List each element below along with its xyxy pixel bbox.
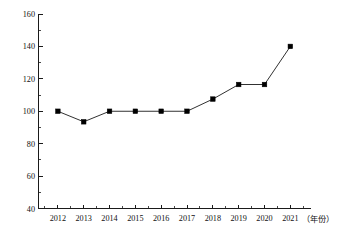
y-tick-label: 40 — [27, 205, 35, 214]
data-point-marker — [56, 109, 61, 114]
data-point-marker — [211, 97, 216, 102]
x-tick-label: 2014 — [101, 214, 117, 223]
data-point-marker — [107, 109, 112, 114]
line-chart-figure: 406080100120140160 201220132014201520162… — [0, 0, 351, 236]
chart-canvas: 406080100120140160 201220132014201520162… — [0, 0, 351, 236]
x-tick-label: 2013 — [76, 214, 92, 223]
x-tick-label: 2020 — [256, 214, 272, 223]
x-tick-label: 2012 — [50, 214, 66, 223]
y-tick-label: 120 — [23, 75, 35, 84]
y-tick-label: 140 — [23, 42, 35, 51]
x-tick-label: 2018 — [205, 214, 221, 223]
data-point-marker — [133, 109, 138, 114]
x-tick-label: 2021 — [282, 214, 298, 223]
data-point-marker — [236, 82, 241, 87]
y-tick-label: 160 — [23, 10, 35, 19]
y-tick-label: 80 — [27, 140, 35, 149]
x-tick-label: 2017 — [179, 214, 195, 223]
data-point-marker — [262, 82, 267, 87]
chart-background — [0, 0, 351, 236]
y-tick-label: 100 — [23, 107, 35, 116]
y-tick-label: 60 — [27, 172, 35, 181]
data-point-marker — [81, 119, 86, 124]
x-tick-label: 2016 — [153, 214, 169, 223]
x-axis-unit-label: （年份） — [302, 214, 334, 224]
data-point-marker — [185, 109, 190, 114]
data-point-marker — [159, 109, 164, 114]
x-tick-label: 2019 — [230, 214, 246, 223]
x-tick-label: 2015 — [127, 214, 143, 223]
data-point-marker — [288, 44, 293, 49]
